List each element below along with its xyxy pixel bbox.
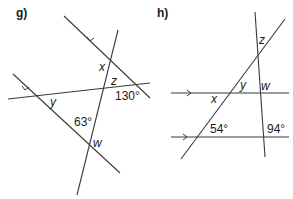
transversal-steep	[77, 30, 118, 195]
parallel-arrow-icon	[22, 86, 29, 90]
angle-label-x: x	[98, 60, 106, 74]
angle-label-y: y	[49, 95, 57, 109]
parallel-line-upper	[64, 16, 150, 98]
angle-label-w: w	[93, 136, 103, 150]
diagram-h: h) z y w x 54° 94°	[157, 6, 289, 159]
angle-label-w: w	[261, 79, 271, 93]
diagram-g-label: g)	[16, 6, 27, 20]
angle-label-130: 130°	[115, 89, 140, 103]
angle-label-y: y	[239, 78, 247, 92]
diagram-g: g) x z 130° y 63° w	[8, 6, 150, 195]
angle-label-54: 54°	[210, 122, 228, 136]
diagram-h-label: h)	[157, 6, 168, 20]
angle-label-x: x	[210, 92, 218, 106]
angles-diagram-canvas: g) x z 130° y 63° w h) z y w	[0, 0, 293, 199]
parallel-line-lower	[13, 74, 120, 173]
angle-label-z: z	[110, 74, 117, 88]
angle-label-94: 94°	[267, 122, 285, 136]
angle-label-63: 63°	[74, 115, 92, 129]
parallel-arrow-icon	[87, 37, 94, 41]
angle-label-z: z	[258, 33, 265, 47]
